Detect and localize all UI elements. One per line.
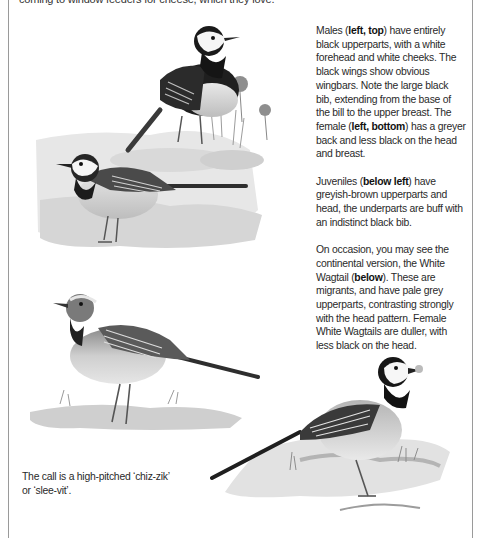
bold-text-run: below left [363, 176, 408, 187]
text-run: Juveniles ( [316, 176, 363, 187]
paragraph-juveniles: Juveniles (below left) have greyish-brow… [316, 175, 466, 230]
paragraph-white-wagtail: On occasion, you may see the continental… [316, 243, 466, 353]
text-run: Males ( [316, 25, 348, 36]
ground-scenery-juvenile [30, 390, 242, 430]
call-caption: The call is a high-pitched ‘chiz-zik’ or… [22, 470, 172, 497]
bold-text-run: below [354, 272, 382, 283]
description-column: Males (left, top) have entirely black up… [316, 24, 466, 367]
text-run: ) have entirely black upperparts, with a… [316, 25, 456, 132]
paragraph-adults: Males (left, top) have entirely black up… [316, 24, 466, 161]
bold-text-run: left, top [348, 25, 383, 36]
bold-text-run: left, bottom [352, 121, 406, 132]
juvenile-wagtail [53, 294, 258, 424]
text-run: ). These are migrants, and have pale gre… [316, 272, 454, 352]
